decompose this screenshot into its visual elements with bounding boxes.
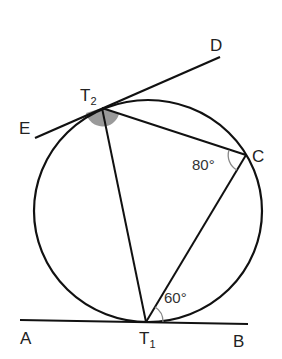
chord-c-t1: [146, 155, 246, 322]
label-d: D: [210, 37, 222, 54]
diagram-canvas: D T2 E C 80° 60° A T1 B: [0, 0, 282, 359]
angle-arc-t1: [155, 307, 163, 322]
geometry-figure: [0, 0, 282, 359]
angle-label-c: 80°: [192, 157, 215, 172]
label-e: E: [19, 120, 30, 137]
label-a: A: [20, 330, 31, 347]
tangent-ed: [35, 57, 220, 138]
label-t2: T2: [80, 87, 97, 107]
label-c: C: [252, 148, 264, 165]
angle-arc-c: [228, 150, 237, 170]
angle-label-t1: 60°: [164, 290, 187, 305]
label-b: B: [233, 333, 244, 350]
label-t1: T1: [139, 330, 156, 350]
chord-t2-t1: [102, 108, 146, 322]
chord-t2-c: [102, 108, 246, 155]
circle: [34, 100, 262, 322]
